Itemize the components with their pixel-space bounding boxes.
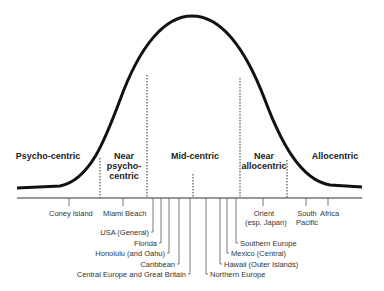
destination-florida: Florida — [134, 239, 157, 248]
segment-line: allocentric — [241, 161, 287, 171]
destination-miami-beach: Miami Beach — [103, 209, 146, 218]
segment-allocentric: Allocentric — [300, 151, 370, 161]
segment-line: psycho- — [104, 161, 144, 171]
label-line: Pacific — [296, 218, 318, 227]
destination-south-pacific: South Pacific — [296, 209, 318, 227]
bell-curve — [17, 16, 362, 188]
destination-central-europe: Central Europe and Great Britain — [77, 270, 186, 279]
segment-line: Near — [241, 151, 287, 161]
destination-honolulu: Honolulu (and Oahu) — [95, 249, 165, 258]
destination-caribbean: Caribbean — [140, 260, 175, 269]
destination-usa-general: USA (General) — [100, 228, 149, 237]
destination-southern-europe: Southern Europe — [240, 239, 297, 248]
segment-line: centric — [104, 171, 144, 181]
segment-psychocentric: Psycho-centric — [8, 151, 88, 161]
psychographic-curve-diagram — [0, 0, 384, 291]
destination-coney-island: Coney Island — [49, 209, 93, 218]
destination-northern-europe: Northern Europe — [210, 270, 265, 279]
segment-near-allocentric: Near allocentric — [241, 151, 287, 171]
label-line: South — [296, 209, 318, 218]
destination-africa: Africa — [320, 209, 339, 218]
segment-midcentric: Mid-centric — [165, 151, 225, 161]
destination-hawaii-outer: Hawaii (Outer Islands) — [224, 260, 298, 269]
label-line: (esp. Japan) — [245, 218, 283, 227]
segment-line: Near — [104, 151, 144, 161]
segment-near-psychocentric: Near psycho- centric — [104, 151, 144, 181]
destination-orient: Orient (esp. Japan) — [245, 209, 283, 227]
label-line: Orient — [245, 209, 283, 218]
destination-mexico: Mexico (Central) — [231, 249, 286, 258]
